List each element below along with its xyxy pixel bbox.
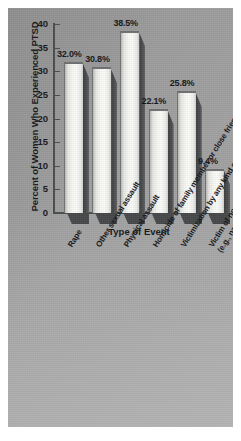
y-axis-tick-label: 35 <box>22 43 48 53</box>
y-axis-tick <box>55 71 60 72</box>
bar-top-edge <box>92 67 111 69</box>
y-axis-tick <box>55 95 60 96</box>
bar-top-edge <box>177 91 196 93</box>
y-axis-tick-label: 15 <box>22 137 48 147</box>
y-axis-tick <box>55 24 60 25</box>
y-axis-tick-label: 5 <box>22 184 48 194</box>
bar-shadow <box>83 64 89 222</box>
y-axis-tick <box>55 213 60 214</box>
y-axis-tick-label: 25 <box>22 90 48 100</box>
bar-shadow <box>111 69 117 222</box>
bar-top-edge <box>120 31 139 33</box>
bar-top-edge <box>149 109 168 111</box>
y-axis-tick <box>55 119 60 120</box>
y-axis-tick-label: 30 <box>22 66 48 76</box>
bar-value-label: 30.8% <box>85 54 110 64</box>
y-axis-tick-label: 20 <box>22 114 48 124</box>
y-axis-tick-label: 40 <box>22 19 48 29</box>
bar-top-edge <box>64 62 83 64</box>
bar <box>64 62 83 213</box>
bar-shadow <box>139 33 145 222</box>
bar-base-shadow <box>67 213 89 224</box>
bar-value-label: 25.8% <box>170 78 195 88</box>
bar-value-label: 32.0% <box>57 49 82 59</box>
bar-shadow <box>168 111 174 222</box>
y-axis-tick <box>55 142 60 143</box>
y-axis-tick <box>55 166 60 167</box>
bar-value-label: 22.1% <box>142 96 167 106</box>
y-axis-tick-label: 10 <box>22 161 48 171</box>
bar-value-label: 38.5% <box>113 18 138 28</box>
y-axis-tick-label: 0 <box>22 208 48 218</box>
bar <box>92 67 111 213</box>
plot-area: Percent of Women Who Experienced PTSD 05… <box>8 8 233 427</box>
chart-figure: Percent of Women Who Experienced PTSD 05… <box>8 8 233 427</box>
y-axis-tick <box>55 189 60 190</box>
